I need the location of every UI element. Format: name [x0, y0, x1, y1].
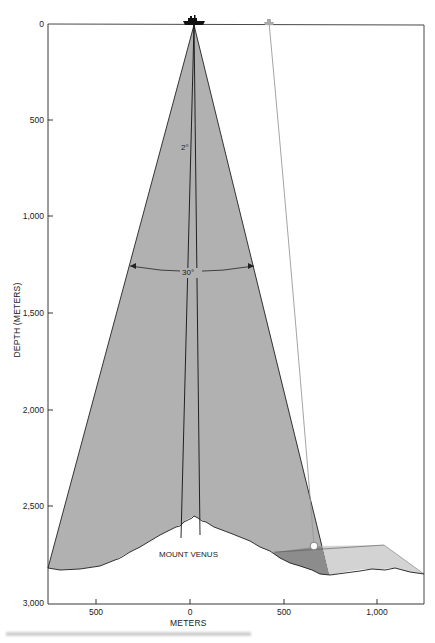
y-tick-label: 1,500	[4, 308, 44, 318]
ghost-ship-icon	[264, 19, 274, 25]
y-tick-label: 1,000	[4, 211, 44, 221]
y-tick-label: 2,500	[4, 501, 44, 511]
y-axis-title: DEPTH (METERS)	[12, 275, 22, 365]
sea-surface-line	[48, 24, 424, 25]
towed-instrument-icon	[310, 542, 318, 550]
seamount-label: MOUNT VENUS	[159, 550, 218, 559]
wide-beam-cone	[48, 25, 325, 570]
y-tick-label: 3,000	[4, 598, 44, 608]
wide-beam-angle-label: 30°	[182, 268, 194, 277]
x-tick-label: 1,000	[357, 607, 397, 617]
x-axis-title: METERS	[170, 618, 207, 628]
sonar-diagram	[0, 0, 435, 643]
survey-ship-icon	[183, 15, 205, 25]
y-tick-label: 2,000	[4, 405, 44, 415]
y-tick-label: 500	[4, 115, 44, 125]
x-tick-label: 500	[264, 607, 304, 617]
x-tick-label: 0	[170, 607, 210, 617]
figure-caption-blur	[6, 632, 251, 636]
narrow-beam-angle-label: 2°	[181, 143, 189, 152]
y-ticks	[48, 120, 53, 506]
x-tick-label: 500	[76, 607, 116, 617]
y-tick-label: 0	[4, 19, 44, 29]
